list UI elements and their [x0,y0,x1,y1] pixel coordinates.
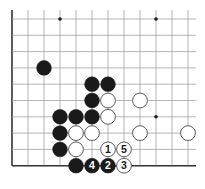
white-stone [133,126,148,141]
black-stone-icon [53,109,68,124]
black-stone [85,109,100,124]
white-stone [101,93,116,108]
white-stone [101,109,116,124]
white-stone-move-3: 3 [117,158,132,173]
black-stone [53,126,68,141]
black-stone-icon [69,158,84,173]
black-stone [101,77,116,92]
white-stone [133,93,148,108]
black-stone-icon [53,126,68,141]
black-stone [85,93,100,108]
black-stone-move-2: 2 [101,158,116,173]
black-stone-icon [85,77,100,92]
move-number-label: 4 [89,159,95,171]
black-stone-icon [101,77,116,92]
black-stone-icon [69,109,84,124]
white-stone-icon [69,126,84,141]
white-stone-icon [181,126,196,141]
white-stone-move-1: 1 [101,142,116,157]
black-stone-icon [37,61,52,76]
black-stone [53,109,68,124]
white-stone-icon [133,126,148,141]
white-stone-icon [69,142,84,157]
white-stone [181,126,196,141]
black-stone-icon [53,142,68,157]
move-number-label: 1 [105,143,111,155]
white-stone-move-5: 5 [117,142,132,157]
black-stone-icon [85,93,100,108]
black-stone-move-4: 4 [85,158,100,173]
white-stone [69,126,84,141]
move-number-label: 5 [121,143,127,155]
white-stone [69,142,84,157]
black-stone [53,142,68,157]
black-stone [69,158,84,173]
black-stone [85,77,100,92]
white-stone-icon [101,109,116,124]
black-stone-icon [85,109,100,124]
white-stone-icon [101,93,116,108]
black-stone [69,109,84,124]
move-number-label: 3 [121,159,127,171]
white-stone-icon [133,93,148,108]
white-stone-icon [85,126,100,141]
star-point-icon [58,17,62,21]
white-stone [85,126,100,141]
go-board-diagram: 15423 [0,0,205,189]
star-point-icon [154,17,158,21]
move-number-label: 2 [105,159,111,171]
star-point-icon [154,115,158,119]
black-stone [37,61,52,76]
